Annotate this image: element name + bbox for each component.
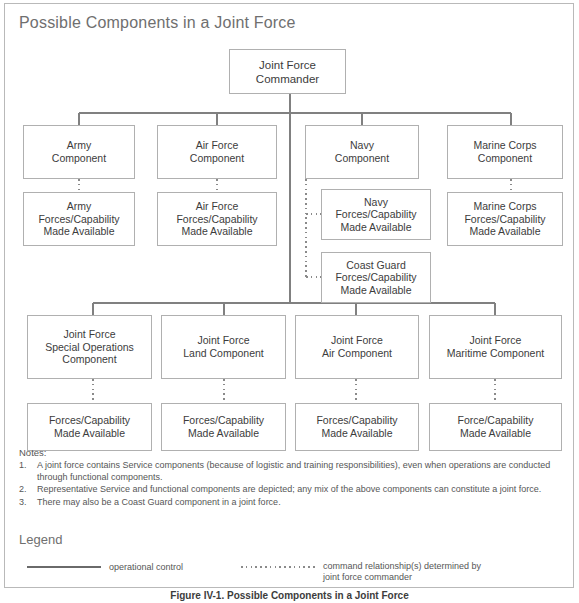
node-label: Army Forces/Capability Made Available — [38, 200, 119, 238]
node-label: Navy Forces/Capability Made Available — [335, 196, 416, 234]
note-text: A joint force contains Service component… — [37, 460, 550, 481]
node-joint-force-air-forces[interactable]: Forces/Capability Made Available — [295, 403, 419, 451]
node-label: Forces/Capability Made Available — [316, 414, 397, 439]
node-label: Coast Guard Forces/Capability Made Avail… — [335, 259, 416, 297]
note-number: 2. — [19, 484, 27, 495]
node-navy-component[interactable]: Navy Component — [305, 125, 419, 179]
legend-dotted-label: command relationship(s) determined by jo… — [323, 561, 481, 583]
node-label: Army Component — [52, 139, 106, 164]
node-air-force-component[interactable]: Air Force Component — [157, 125, 277, 179]
note-item: 1. A joint force contains Service compon… — [19, 460, 564, 483]
node-marine-corps-component[interactable]: Marine Corps Component — [447, 125, 563, 179]
legend-heading: Legend — [19, 532, 62, 547]
node-coast-guard-forces[interactable]: Coast Guard Forces/Capability Made Avail… — [321, 252, 431, 303]
node-joint-force-land-forces[interactable]: Forces/Capability Made Available — [161, 403, 286, 451]
node-label: Joint Force Special Operations Component — [45, 328, 134, 366]
note-number: 3. — [19, 497, 27, 508]
node-joint-force-land-component[interactable]: Joint Force Land Component — [161, 315, 286, 379]
node-label: Forces/Capability Made Available — [183, 414, 264, 439]
node-air-force-forces[interactable]: Air Force Forces/Capability Made Availab… — [157, 192, 277, 246]
node-army-component[interactable]: Army Component — [23, 125, 135, 179]
node-joint-force-maritime-forces[interactable]: Force/Capability Made Available — [429, 403, 562, 451]
node-label: Joint Force Air Component — [322, 334, 392, 359]
node-label: Force/Capability Made Available — [458, 414, 534, 439]
node-label: Joint Force Land Component — [183, 334, 264, 359]
node-navy-forces[interactable]: Navy Forces/Capability Made Available — [321, 189, 431, 240]
figure-panel: Possible Components in a Joint Force — [4, 3, 574, 588]
node-label: Air Force Component — [190, 139, 244, 164]
legend-solid-label: operational control — [109, 562, 183, 573]
note-text: Representative Service and functional co… — [37, 484, 541, 494]
node-label: Navy Component — [335, 139, 389, 164]
node-label: Forces/Capability Made Available — [49, 414, 130, 439]
node-label: Joint Force Maritime Component — [447, 334, 544, 359]
notes-block: Notes: 1. A joint force contains Service… — [19, 447, 564, 509]
node-army-forces[interactable]: Army Forces/Capability Made Available — [23, 192, 135, 246]
note-item: 2. Representative Service and functional… — [19, 484, 564, 495]
node-label: Marine Corps Component — [473, 139, 536, 164]
node-joint-force-maritime-component[interactable]: Joint Force Maritime Component — [429, 315, 562, 379]
figure-caption: Figure IV-1. Possible Components in a Jo… — [0, 590, 579, 603]
node-label: Marine Corps Forces/Capability Made Avai… — [464, 200, 545, 238]
node-marine-corps-forces[interactable]: Marine Corps Forces/Capability Made Avai… — [447, 192, 563, 246]
node-joint-force-air-component[interactable]: Joint Force Air Component — [295, 315, 419, 379]
node-label: Joint Force Commander — [256, 58, 319, 86]
note-text: There may also be a Coast Guard componen… — [37, 497, 281, 507]
node-joint-force-sof-component[interactable]: Joint Force Special Operations Component — [27, 315, 152, 379]
node-label: Air Force Forces/Capability Made Availab… — [176, 200, 257, 238]
node-joint-force-sof-forces[interactable]: Forces/Capability Made Available — [27, 403, 152, 451]
note-number: 1. — [19, 460, 27, 471]
note-item: 3. There may also be a Coast Guard compo… — [19, 497, 564, 508]
notes-heading: Notes: — [19, 447, 564, 458]
node-joint-force-commander[interactable]: Joint Force Commander — [229, 49, 346, 94]
